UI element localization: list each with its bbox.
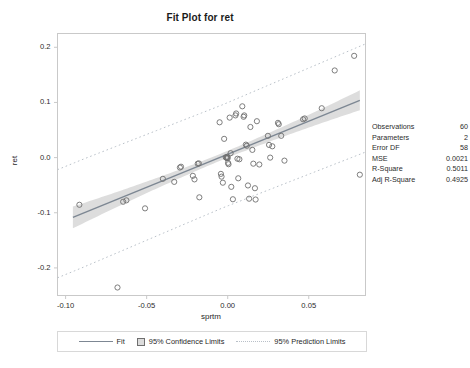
fit-plot-page: Fit Plot for ret -0.10-0.050.000.050.20.…	[0, 0, 470, 368]
stats-row: MSE0.0021	[372, 154, 468, 165]
stats-value: 0.5011	[447, 164, 468, 175]
stats-row: Observations60	[372, 122, 468, 133]
y-axis-label: ret	[10, 131, 19, 191]
stats-label: R-Square	[372, 164, 403, 175]
stats-label: Parameters	[372, 133, 409, 144]
legend-item-prediction: 95% Prediction Limits	[236, 337, 345, 346]
stats-label: Error DF	[372, 143, 400, 154]
stats-row: Error DF58	[372, 143, 468, 154]
chart-legend: Fit 95% Confidence Limits 95% Prediction…	[57, 331, 367, 352]
y-tick-label: -0.1	[17, 208, 51, 217]
legend-label-fit: Fit	[117, 337, 125, 346]
legend-item-confidence: 95% Confidence Limits	[137, 337, 225, 346]
x-tick-label: 0.05	[289, 301, 329, 310]
stats-label: Adj R-Square	[372, 175, 415, 186]
legend-label-prediction: 95% Prediction Limits	[274, 337, 345, 346]
y-tick-label: 0.1	[17, 97, 51, 106]
stats-value: 0.0021	[446, 154, 468, 165]
stats-row: R-Square0.5011	[372, 164, 468, 175]
plot-frame	[58, 34, 366, 296]
stats-row: Adj R-Square0.4925	[372, 175, 468, 186]
y-tick-label: 0.2	[17, 42, 51, 51]
prediction-limits-swatch-icon	[236, 341, 270, 342]
stats-label: Observations	[372, 122, 414, 133]
stats-value: 60	[460, 122, 468, 133]
x-tick-label: 0.00	[208, 301, 248, 310]
stats-row: Parameters2	[372, 133, 468, 144]
x-tick-label: -0.10	[46, 301, 86, 310]
stats-value: 58	[460, 143, 468, 154]
y-tick-label: 0.0	[17, 153, 51, 162]
statistics-box: Observations60Parameters2Error DF58MSE0.…	[372, 122, 468, 186]
stats-value: 2	[464, 133, 468, 144]
y-tick-label: -0.2	[17, 263, 51, 272]
legend-label-confidence: 95% Confidence Limits	[149, 337, 225, 346]
x-tick-label: -0.05	[127, 301, 167, 310]
stats-label: MSE	[372, 154, 388, 165]
x-axis-label: sprtm	[57, 312, 365, 321]
fit-line-swatch-icon	[79, 341, 113, 342]
confidence-band-swatch-icon	[137, 338, 145, 346]
stats-value: 0.4925	[446, 175, 468, 186]
legend-item-fit: Fit	[79, 337, 125, 346]
